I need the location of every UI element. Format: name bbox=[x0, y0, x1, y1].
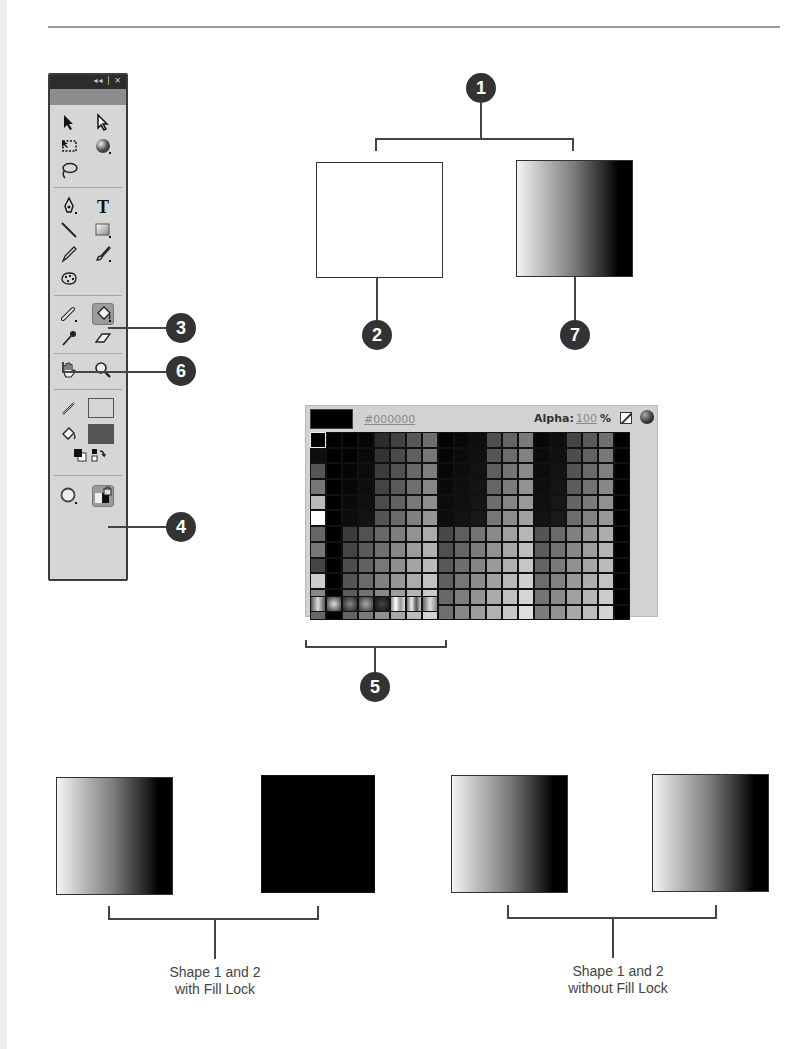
color-swatch[interactable] bbox=[406, 526, 422, 542]
color-swatch[interactable] bbox=[470, 558, 486, 574]
color-swatch[interactable] bbox=[518, 573, 534, 589]
color-swatch[interactable] bbox=[374, 526, 390, 542]
color-swatch[interactable] bbox=[454, 589, 470, 605]
paint-bucket-tool[interactable] bbox=[92, 303, 114, 325]
color-swatch[interactable] bbox=[534, 432, 550, 448]
color-swatch[interactable] bbox=[614, 463, 630, 479]
color-swatch[interactable] bbox=[390, 526, 406, 542]
color-swatch[interactable] bbox=[390, 448, 406, 464]
color-swatch[interactable] bbox=[550, 479, 566, 495]
color-swatch[interactable] bbox=[550, 495, 566, 511]
color-swatch[interactable] bbox=[486, 510, 502, 526]
gradient-swatch[interactable] bbox=[310, 596, 326, 612]
color-swatch[interactable] bbox=[422, 542, 438, 558]
color-swatch[interactable] bbox=[406, 479, 422, 495]
color-swatch[interactable] bbox=[310, 432, 326, 448]
color-swatch[interactable] bbox=[422, 463, 438, 479]
panel-controls[interactable]: ◂◂ | ✕ bbox=[93, 76, 122, 85]
color-swatch[interactable] bbox=[518, 526, 534, 542]
color-swatch[interactable] bbox=[438, 605, 454, 621]
color-swatch[interactable] bbox=[438, 526, 454, 542]
color-swatch[interactable] bbox=[374, 573, 390, 589]
color-swatch[interactable] bbox=[422, 432, 438, 448]
color-swatch[interactable] bbox=[390, 463, 406, 479]
color-swatch[interactable] bbox=[614, 432, 630, 448]
alpha-value-field[interactable]: 100 bbox=[576, 412, 597, 425]
color-swatch[interactable] bbox=[342, 573, 358, 589]
color-swatch[interactable] bbox=[358, 510, 374, 526]
color-swatch[interactable] bbox=[342, 526, 358, 542]
color-swatch[interactable] bbox=[566, 589, 582, 605]
free-transform-tool[interactable] bbox=[58, 135, 80, 157]
color-swatch[interactable] bbox=[582, 605, 598, 621]
color-swatch[interactable] bbox=[486, 573, 502, 589]
shape-white-square[interactable] bbox=[316, 162, 443, 278]
line-tool[interactable] bbox=[58, 219, 80, 241]
color-swatch[interactable] bbox=[454, 573, 470, 589]
color-swatch[interactable] bbox=[502, 432, 518, 448]
color-swatch[interactable] bbox=[470, 605, 486, 621]
shape2-with-fill-lock[interactable] bbox=[261, 775, 375, 893]
color-swatch[interactable] bbox=[582, 448, 598, 464]
color-swatch[interactable] bbox=[502, 463, 518, 479]
color-swatch[interactable] bbox=[486, 448, 502, 464]
stroke-color-swatch[interactable] bbox=[88, 398, 114, 418]
color-swatch[interactable] bbox=[502, 558, 518, 574]
color-swatch[interactable] bbox=[310, 510, 326, 526]
color-swatch[interactable] bbox=[550, 558, 566, 574]
color-swatch[interactable] bbox=[566, 573, 582, 589]
color-swatch[interactable] bbox=[390, 510, 406, 526]
color-swatch[interactable] bbox=[358, 526, 374, 542]
color-swatch[interactable] bbox=[438, 542, 454, 558]
tools-panel-titlebar[interactable]: ◂◂ | ✕ bbox=[50, 75, 126, 89]
pen-tool[interactable] bbox=[58, 195, 80, 217]
shape2-without-fill-lock[interactable] bbox=[652, 774, 769, 892]
color-swatch[interactable] bbox=[358, 542, 374, 558]
lock-fill-button[interactable] bbox=[92, 485, 114, 507]
color-swatch[interactable] bbox=[502, 510, 518, 526]
color-swatch[interactable] bbox=[614, 495, 630, 511]
color-swatch[interactable] bbox=[358, 432, 374, 448]
color-swatch[interactable] bbox=[614, 448, 630, 464]
gradient-swatches[interactable] bbox=[310, 596, 438, 612]
color-swatch[interactable] bbox=[310, 448, 326, 464]
color-swatch[interactable] bbox=[534, 542, 550, 558]
color-swatch[interactable] bbox=[550, 448, 566, 464]
zoom-tool[interactable] bbox=[92, 359, 114, 381]
shape-gradient-square[interactable] bbox=[516, 160, 633, 277]
color-swatch[interactable] bbox=[422, 448, 438, 464]
color-swatch[interactable] bbox=[518, 479, 534, 495]
color-swatch[interactable] bbox=[310, 573, 326, 589]
color-swatch[interactable] bbox=[598, 495, 614, 511]
color-swatch[interactable] bbox=[358, 573, 374, 589]
color-swatch[interactable] bbox=[454, 479, 470, 495]
color-swatch[interactable] bbox=[582, 526, 598, 542]
color-swatch[interactable] bbox=[550, 463, 566, 479]
color-swatch[interactable] bbox=[598, 589, 614, 605]
color-swatch[interactable] bbox=[310, 542, 326, 558]
fill-color-swatch[interactable] bbox=[88, 424, 114, 444]
color-swatch[interactable] bbox=[582, 495, 598, 511]
color-swatch[interactable] bbox=[438, 432, 454, 448]
color-swatch[interactable] bbox=[614, 589, 630, 605]
color-swatch[interactable] bbox=[518, 510, 534, 526]
color-swatch[interactable] bbox=[534, 510, 550, 526]
color-swatch[interactable] bbox=[438, 463, 454, 479]
rectangle-tool[interactable] bbox=[92, 219, 114, 241]
color-swatch[interactable] bbox=[534, 589, 550, 605]
color-swatch[interactable] bbox=[358, 495, 374, 511]
color-swatch[interactable] bbox=[406, 463, 422, 479]
color-swatch[interactable] bbox=[550, 573, 566, 589]
gradient-swatch[interactable] bbox=[406, 596, 422, 612]
color-swatch[interactable] bbox=[598, 573, 614, 589]
color-swatch[interactable] bbox=[310, 558, 326, 574]
color-swatch[interactable] bbox=[502, 542, 518, 558]
color-swatch[interactable] bbox=[406, 432, 422, 448]
color-swatch[interactable] bbox=[470, 510, 486, 526]
color-swatch[interactable] bbox=[534, 448, 550, 464]
color-swatch[interactable] bbox=[598, 558, 614, 574]
color-swatch[interactable] bbox=[374, 558, 390, 574]
color-swatch[interactable] bbox=[598, 605, 614, 621]
color-swatch[interactable] bbox=[374, 479, 390, 495]
color-swatch[interactable] bbox=[534, 463, 550, 479]
